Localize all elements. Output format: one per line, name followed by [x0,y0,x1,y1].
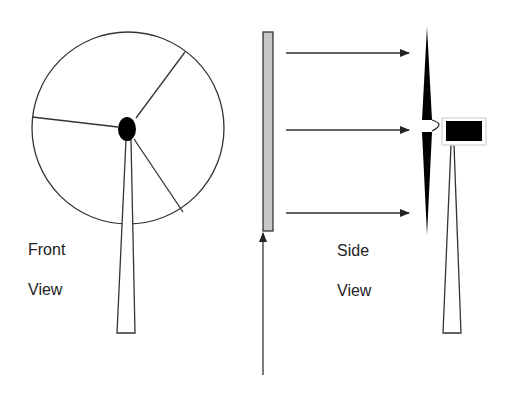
side-blade-upper [422,27,432,120]
front-label-line1: Front [28,241,65,259]
hub [118,117,136,141]
front-label-line2: View [28,281,62,299]
blade-2 [32,117,118,127]
nacelle [446,121,482,141]
side-view-turbine [422,27,486,333]
side-label-line2: View [337,282,371,300]
blade-1 [136,52,185,118]
wind-panel [263,32,273,231]
side-label-line1: Side [337,242,369,260]
front-tower [117,140,135,333]
hub-connector [432,120,439,131]
blade-3 [134,139,183,212]
wind-turbine-diagram [0,0,513,395]
side-blade-lower [422,132,432,235]
side-tower [443,145,461,333]
